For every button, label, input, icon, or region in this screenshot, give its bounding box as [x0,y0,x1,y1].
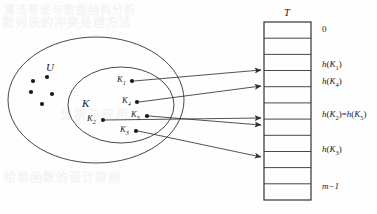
hash-table-figure: 算法导论与数据结构分析 散列表的冲突处理方法 分析与应用 哈希函数的设计原则 [0,0,377,214]
slot-label-h-k1-close: ) [339,59,342,69]
slot-label-m-minus-1-text: m [322,181,329,191]
arrow-k3-to-slot8 [138,131,261,157]
universe-key-dot [50,92,54,96]
diagram-canvas [0,0,377,214]
key-dot-k3 [134,129,138,133]
universe-key-dot [31,79,35,83]
key-dot-k1 [130,79,134,83]
universe-key-dot [45,75,49,79]
universe-key-dot [40,102,44,106]
table-label-t: T [284,8,290,19]
slot-label-h-k3-close: ) [339,144,342,154]
key-label-k4-sub: 4 [128,100,131,107]
hash-table-slot-dividers [264,38,311,184]
key-label-k3-sub: 3 [126,129,129,136]
universe-label-u: U [46,62,54,73]
slot-label-collision-close-b: ) [364,109,367,119]
slot-label-h-k3: h(K3) [322,145,342,156]
arrow-k5-to-slot6 [149,116,261,125]
key-dot-k2 [101,118,105,122]
slot-label-h-k2-eq-h-k5: h(K2)=h(K5) [322,110,367,121]
key-label-k4: K4 [122,96,131,107]
universe-unlabeled-keys [29,75,54,106]
slot-label-collision-close-a: )= [339,109,347,119]
arrow-k1-to-slot3 [134,70,261,81]
arrow-k4-to-slot4 [139,86,261,102]
key-label-k2: K2 [87,114,96,125]
key-label-k2-sub: 2 [93,118,96,125]
hash-table-frame [264,22,311,200]
slot-label-h-k4-close: ) [339,76,342,86]
mapping-arrows [105,70,261,157]
slot-label-index-0: 0 [322,25,327,34]
key-dot-k4 [135,100,139,104]
key-label-k5: K5 [131,110,140,121]
key-label-k5-sub: 5 [137,114,140,121]
key-label-k1-sub: 1 [123,79,126,86]
keyset-label-k: K [82,98,89,109]
key-label-k1: K1 [117,75,126,86]
slot-label-h-k1: h(K1) [322,60,342,71]
slot-label-h-k4: h(K4) [322,77,342,88]
universe-key-dot [29,90,33,94]
key-label-k3: K3 [120,125,129,136]
hash-table [264,22,311,200]
key-dot-k5 [145,114,149,118]
universe-ellipse [8,37,184,163]
slot-label-index-m-minus-1: m−1 [322,182,339,191]
